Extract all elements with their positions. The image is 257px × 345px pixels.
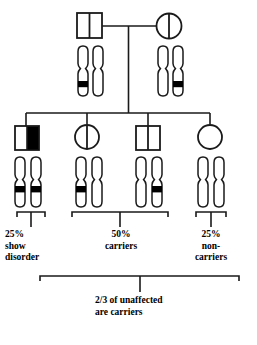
chromosome-child3-1-clear: [136, 157, 146, 207]
pedigree-diagram: 25% show disorder 50% carriers 25% non- …: [0, 0, 257, 345]
chromosome-child1-2-banded: [31, 157, 41, 207]
bracket-unaffected-summary: [40, 276, 239, 292]
individual-mother-symbol: [157, 14, 182, 39]
chromosome-pair-child-2: [76, 157, 102, 207]
pedigree-graphic: [0, 0, 257, 345]
chromosome-father-2-clear: [93, 46, 103, 96]
sibship-drop-lines: [26, 113, 210, 126]
bracket-noncarriers: [196, 212, 226, 227]
chromosome-child3-2-banded: [152, 157, 162, 207]
chromosome-pair-mother: [158, 46, 183, 96]
bracket-carriers: [72, 212, 168, 227]
chromosome-child1-1-banded: [15, 157, 25, 207]
chromosome-child4-2-clear: [214, 157, 224, 207]
individual-child-2-symbol: [75, 125, 99, 149]
chromosome-mother-1-clear: [158, 46, 168, 96]
chromosome-child2-1-banded: [76, 157, 86, 207]
label-carriers-group: 50% carriers: [90, 229, 152, 252]
label-summary-unaffected-carriers: 2/3 of unaffected are carriers: [95, 295, 225, 318]
chromosome-father-1-banded: [78, 46, 88, 96]
chromosome-pair-child-4: [198, 157, 224, 207]
chromosome-child4-1-clear: [198, 157, 208, 207]
chromosome-child2-2-clear: [92, 157, 102, 207]
individual-child-1-symbol: [15, 126, 39, 150]
chromosome-pair-child-3: [136, 157, 162, 207]
bracket-affected: [17, 212, 45, 227]
individual-child-3-symbol: [136, 126, 160, 150]
individual-child-4-symbol: [198, 125, 222, 149]
chromosome-pair-father: [78, 46, 103, 96]
individual-father-symbol: [77, 13, 102, 38]
label-affected-group: 25% show disorder: [5, 229, 65, 264]
chromosome-pair-child-1: [15, 157, 41, 207]
chromosome-mother-2-banded: [173, 46, 183, 96]
label-noncarriers-group: 25% non- carriers: [182, 229, 240, 264]
